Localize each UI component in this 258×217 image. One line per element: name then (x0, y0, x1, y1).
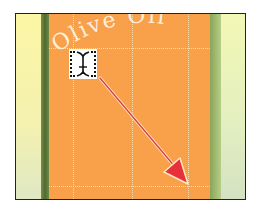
drag-arrow-icon (16, 14, 246, 200)
artboard-canvas[interactable]: Olive Oil (15, 13, 246, 200)
vertical-type-path-cursor-icon (68, 48, 98, 80)
